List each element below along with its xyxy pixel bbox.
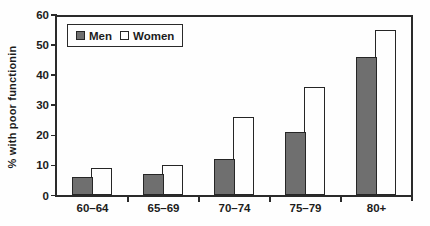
y-tick-0 xyxy=(51,195,56,197)
bar-women-80+ xyxy=(375,30,396,195)
y-tick-40 xyxy=(51,74,56,76)
bar-men-65-69 xyxy=(143,174,164,195)
men-swatch-icon xyxy=(76,31,85,40)
legend-label-women: Women xyxy=(133,30,174,42)
plot-border-right xyxy=(411,15,413,201)
bar-women-60-64 xyxy=(91,168,112,195)
x-category-label-1: 65–69 xyxy=(129,202,199,214)
y-tick-label-10: 10 xyxy=(23,159,49,171)
bar-men-80+ xyxy=(356,57,377,195)
bar-men-70-74 xyxy=(214,159,235,195)
plot-border-top xyxy=(57,15,412,17)
y-tick-label-50: 50 xyxy=(23,39,49,51)
y-tick-50 xyxy=(51,44,56,46)
y-tick-label-0: 0 xyxy=(23,190,49,202)
x-category-label-4: 80+ xyxy=(342,202,412,214)
y-tick-30 xyxy=(51,104,56,106)
x-category-label-2: 70–74 xyxy=(200,202,270,214)
bar-women-65-69 xyxy=(162,165,183,195)
y-tick-10 xyxy=(51,165,56,167)
y-tick-60 xyxy=(51,14,56,16)
x-category-label-0: 60–64 xyxy=(58,202,128,214)
bar-women-75-79 xyxy=(304,87,325,195)
legend: Men Women xyxy=(67,24,183,47)
y-axis-title: % with poor functionin xyxy=(6,27,22,187)
bar-men-60-64 xyxy=(72,177,93,195)
women-swatch-icon xyxy=(120,31,129,40)
y-tick-20 xyxy=(51,135,56,137)
legend-entry-women: Women xyxy=(120,30,174,42)
bar-chart-figure: % with poor functionin 0102030405060 60–… xyxy=(0,0,430,226)
legend-entry-men: Men xyxy=(76,30,112,42)
x-category-label-3: 75–79 xyxy=(271,202,341,214)
y-tick-label-40: 40 xyxy=(23,69,49,81)
bar-women-70-74 xyxy=(233,117,254,195)
bar-men-75-79 xyxy=(285,132,306,195)
y-tick-label-20: 20 xyxy=(23,129,49,141)
y-tick-label-30: 30 xyxy=(23,99,49,111)
legend-label-men: Men xyxy=(89,30,112,42)
y-tick-label-60: 60 xyxy=(23,9,49,21)
